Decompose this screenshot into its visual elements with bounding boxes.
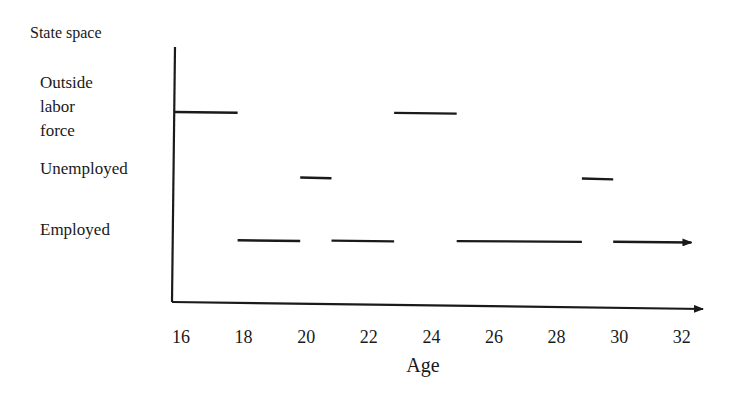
x-tick-label: 32 [673, 327, 691, 348]
x-axis-label: Age [406, 354, 439, 377]
x-tick-label: 16 [172, 327, 190, 348]
state-segment-unemployed [300, 177, 331, 178]
x-tick-label: 26 [485, 327, 503, 348]
state-segment-outside-labor-force [175, 112, 238, 113]
state-segment-employed [332, 241, 395, 242]
y-axis [172, 47, 175, 302]
x-tick-label: 22 [360, 327, 378, 348]
state-segment-outside-labor-force [394, 113, 457, 114]
state-segment-employed [238, 240, 301, 241]
x-tick-label: 24 [422, 327, 440, 348]
state-segment-unemployed [582, 179, 613, 180]
x-tick-label: 28 [548, 327, 566, 348]
x-tick-label: 18 [235, 327, 253, 348]
x-tick-label: 30 [610, 327, 628, 348]
x-tick-label: 20 [297, 327, 315, 348]
state-segment-employed [457, 241, 582, 242]
x-axis [172, 302, 703, 309]
state-segment-employed [613, 242, 691, 243]
